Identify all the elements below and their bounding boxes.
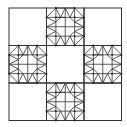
quilt-diagram [0, 0, 127, 127]
grid-cell [47, 46, 85, 84]
star-blocks [8, 7, 122, 121]
star-block [83, 45, 122, 84]
grid-cell [84, 8, 122, 46]
star-block [8, 45, 47, 84]
grid-cell [9, 8, 47, 46]
star-block [46, 7, 85, 46]
grid-cell [9, 83, 47, 121]
star-block [46, 82, 85, 121]
grid-cell [84, 83, 122, 121]
